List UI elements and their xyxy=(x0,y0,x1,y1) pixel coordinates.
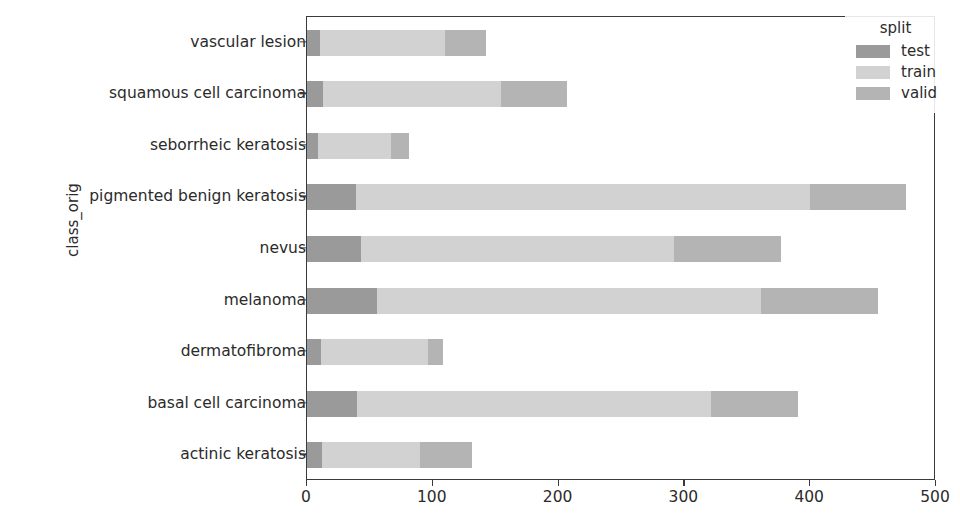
y-tick-label: dermatofibroma xyxy=(0,342,315,360)
bar-segment-train xyxy=(361,236,674,262)
bar-segment-valid xyxy=(391,133,409,159)
legend-entry-test: test xyxy=(856,42,937,60)
y-tick-label: squamous cell carcinoma xyxy=(0,84,315,102)
bar-segment-valid xyxy=(420,442,472,468)
legend-entry-train: train xyxy=(856,63,937,81)
plot-area xyxy=(306,16,935,480)
bar-segment-train xyxy=(356,184,810,210)
y-tick-label: pigmented benign keratosis xyxy=(0,187,315,205)
chart-figure: class_orig vascular lesionsquamous cell … xyxy=(0,0,960,515)
bar-segment-train xyxy=(323,81,500,107)
legend-swatch-test xyxy=(856,45,890,58)
bar-segment-test xyxy=(307,442,322,468)
bar-segment-train xyxy=(318,133,391,159)
legend-title: split xyxy=(856,19,937,37)
bar-segment-train xyxy=(357,391,710,417)
x-tick-mark xyxy=(683,480,684,486)
y-tick-label: actinic keratosis xyxy=(0,445,315,463)
bar-row xyxy=(307,30,936,56)
x-tick-label: 200 xyxy=(543,488,573,506)
x-tick-mark xyxy=(558,480,559,486)
bar-row xyxy=(307,81,936,107)
bar-row xyxy=(307,184,936,210)
bar-segment-train xyxy=(322,442,420,468)
bar-segment-valid xyxy=(711,391,798,417)
x-tick-mark xyxy=(809,480,810,486)
bar-segment-test xyxy=(307,391,357,417)
legend-entry-group: testtrainvalid xyxy=(856,42,937,102)
x-tick-mark xyxy=(306,480,307,486)
x-tick-label: 400 xyxy=(794,488,824,506)
legend-label: train xyxy=(901,63,936,81)
bar-segment-test xyxy=(307,133,318,159)
y-tick-label: melanoma xyxy=(0,291,315,309)
bar-row xyxy=(307,391,936,417)
y-tick-label: basal cell carcinoma xyxy=(0,394,315,412)
bar-segment-train xyxy=(321,339,428,365)
bar-segment-test xyxy=(307,288,377,314)
bar-segment-test xyxy=(307,184,356,210)
bar-segment-test xyxy=(307,30,320,56)
x-tick-mark xyxy=(432,480,433,486)
y-axis-label: class_orig xyxy=(64,140,82,300)
x-tick-label: 100 xyxy=(417,488,447,506)
legend: split testtrainvalid xyxy=(845,12,948,113)
bar-segment-train xyxy=(320,30,446,56)
x-tick-label: 0 xyxy=(301,488,311,506)
y-tick-label: seborrheic keratosis xyxy=(0,136,315,154)
y-tick-label: nevus xyxy=(0,239,315,257)
bar-segment-valid xyxy=(501,81,568,107)
x-tick-label: 300 xyxy=(669,488,699,506)
bar-segment-test xyxy=(307,81,323,107)
x-tick-mark xyxy=(935,480,936,486)
legend-label: valid xyxy=(901,84,937,102)
bar-row xyxy=(307,339,936,365)
bar-segment-valid xyxy=(810,184,906,210)
bar-row xyxy=(307,288,936,314)
legend-entry-valid: valid xyxy=(856,84,937,102)
bar-row xyxy=(307,133,936,159)
bar-segment-valid xyxy=(445,30,485,56)
legend-label: test xyxy=(901,42,930,60)
bar-row xyxy=(307,442,936,468)
y-tick-label: vascular lesion xyxy=(0,33,315,51)
bar-row xyxy=(307,236,936,262)
bar-segment-test xyxy=(307,339,321,365)
bar-segment-test xyxy=(307,236,361,262)
legend-swatch-valid xyxy=(856,87,890,100)
bar-segment-train xyxy=(377,288,761,314)
bar-segment-valid xyxy=(674,236,781,262)
bar-segment-valid xyxy=(761,288,878,314)
bar-segment-valid xyxy=(428,339,443,365)
legend-swatch-train xyxy=(856,66,890,79)
x-tick-label: 500 xyxy=(920,488,950,506)
